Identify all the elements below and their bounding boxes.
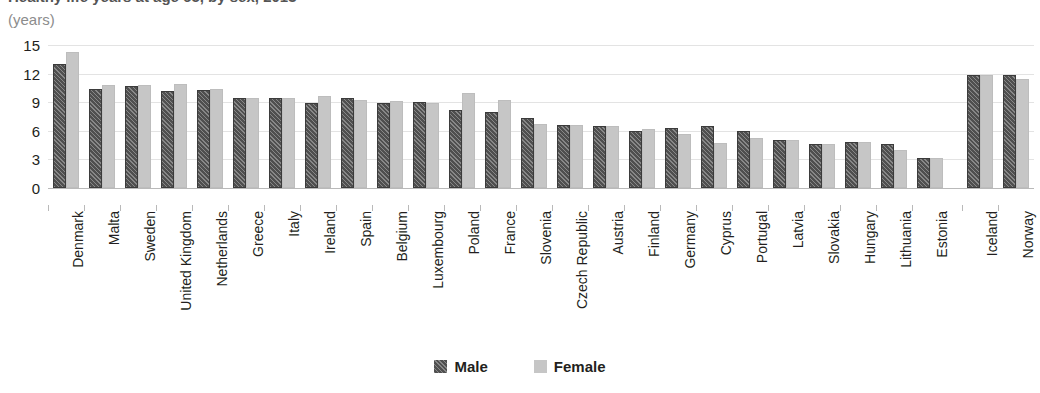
bar-female[interactable] [1016, 79, 1029, 188]
bar-female[interactable] [534, 124, 547, 188]
bar-group[interactable] [962, 45, 998, 188]
chart-legend: MaleFemale [0, 358, 1040, 375]
x-axis-category-label: United Kingdom [179, 211, 193, 311]
bar-group[interactable] [336, 45, 372, 188]
x-axis-label-cell: Iceland [962, 207, 998, 337]
bar-group[interactable] [876, 45, 912, 188]
y-axis-tick-label: 9 [14, 94, 40, 111]
bar-male[interactable] [305, 103, 318, 188]
bar-group[interactable] [840, 45, 876, 188]
bar-female[interactable] [210, 89, 223, 188]
y-axis-tick-label: 6 [14, 122, 40, 139]
bar-group[interactable] [588, 45, 624, 188]
bar-group[interactable] [732, 45, 768, 188]
bar-female[interactable] [498, 100, 511, 188]
bar-group[interactable] [912, 45, 948, 188]
bar-group[interactable] [372, 45, 408, 188]
bar-group[interactable] [480, 45, 516, 188]
bar-male[interactable] [125, 86, 138, 188]
bar-female[interactable] [138, 85, 151, 188]
bar-female[interactable] [822, 144, 835, 188]
bar-male[interactable] [233, 98, 246, 188]
legend-item-male[interactable]: Male [434, 358, 487, 375]
x-axis-category-label: Netherlands [215, 211, 229, 287]
bar-female[interactable] [282, 98, 295, 188]
bar-male[interactable] [197, 90, 210, 188]
bar-group[interactable] [156, 45, 192, 188]
bar-group[interactable] [48, 45, 84, 188]
bar-female[interactable] [426, 103, 439, 188]
bar-group[interactable] [300, 45, 336, 188]
bar-male[interactable] [377, 103, 390, 188]
bar-female[interactable] [786, 140, 799, 188]
bar-male[interactable] [161, 91, 174, 188]
bar-male[interactable] [701, 126, 714, 188]
bar-male[interactable] [521, 118, 534, 188]
bar-female[interactable] [318, 96, 331, 188]
bar-male[interactable] [917, 158, 930, 189]
bar-male[interactable] [269, 98, 282, 188]
bar-group[interactable] [228, 45, 264, 188]
bar-female[interactable] [246, 98, 259, 188]
bar-male[interactable] [665, 128, 678, 188]
bar-male[interactable] [967, 75, 980, 188]
bar-female[interactable] [750, 138, 763, 188]
bar-male[interactable] [449, 110, 462, 188]
bar-female[interactable] [102, 85, 115, 188]
bar-female[interactable] [66, 52, 79, 188]
bar-group[interactable] [552, 45, 588, 188]
y-axis: 03691215 [10, 45, 40, 205]
bar-female[interactable] [894, 150, 907, 188]
x-axis-label-cell: Ireland [300, 207, 336, 337]
x-axis-category-label: Cyprus [719, 211, 733, 255]
bar-male[interactable] [53, 64, 66, 188]
bar-group[interactable] [120, 45, 156, 188]
x-axis-category-label: Spain [359, 211, 373, 247]
bar-group[interactable] [624, 45, 660, 188]
bar-group[interactable] [84, 45, 120, 188]
bar-male[interactable] [485, 112, 498, 188]
bar-group[interactable] [804, 45, 840, 188]
bar-female[interactable] [570, 125, 583, 188]
legend-item-female[interactable]: Female [534, 358, 606, 375]
bar-female[interactable] [980, 75, 993, 188]
bar-male[interactable] [341, 98, 354, 188]
bar-male[interactable] [1003, 75, 1016, 188]
bar-group[interactable] [408, 45, 444, 188]
bar-female[interactable] [174, 84, 187, 188]
x-axis-label-cell: Latvia [768, 207, 804, 337]
bar-male[interactable] [881, 144, 894, 188]
bar-group[interactable] [660, 45, 696, 188]
bar-female[interactable] [678, 134, 691, 188]
x-axis-label-cell: Denmark [48, 207, 84, 337]
bar-group[interactable] [696, 45, 732, 188]
bar-male[interactable] [593, 126, 606, 188]
bar-male[interactable] [413, 102, 426, 188]
bar-male[interactable] [773, 140, 786, 188]
bar-group[interactable] [444, 45, 480, 188]
bar-female[interactable] [714, 143, 727, 188]
bar-male[interactable] [557, 125, 570, 188]
bar-group[interactable] [192, 45, 228, 188]
legend-swatch-icon [534, 360, 547, 373]
bar-group[interactable] [264, 45, 300, 188]
x-axis-category-label: Austria [611, 211, 625, 255]
bar-female[interactable] [606, 126, 619, 188]
x-axis-category-label: Czech Republic [575, 211, 589, 309]
bar-male[interactable] [737, 131, 750, 188]
bar-male[interactable] [845, 142, 858, 188]
bar-female[interactable] [354, 100, 367, 188]
bar-male[interactable] [809, 144, 822, 188]
bar-female[interactable] [462, 93, 475, 188]
bar-group[interactable] [998, 45, 1034, 188]
bar-male[interactable] [89, 89, 102, 188]
bar-group[interactable] [768, 45, 804, 188]
y-axis-tick-label: 0 [14, 180, 40, 197]
x-axis-label-cell: Austria [588, 207, 624, 337]
bar-group[interactable] [516, 45, 552, 188]
bar-female[interactable] [642, 129, 655, 188]
bar-female[interactable] [390, 101, 403, 188]
bar-female[interactable] [930, 158, 943, 189]
bar-female[interactable] [858, 142, 871, 188]
bar-male[interactable] [629, 131, 642, 188]
